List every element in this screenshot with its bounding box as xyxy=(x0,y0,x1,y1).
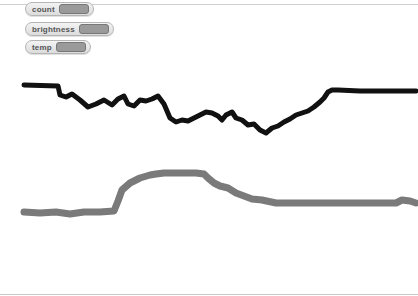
watcher-count[interactable]: count xyxy=(25,2,94,16)
watcher-label: temp xyxy=(32,43,52,52)
watcher-label: count xyxy=(32,5,55,14)
watcher-label: brightness xyxy=(32,25,75,34)
watcher-value xyxy=(56,42,86,52)
watcher-temp[interactable]: temp xyxy=(25,40,91,54)
brightness-trace-line xyxy=(24,173,416,214)
temp-trace-line xyxy=(24,85,416,133)
watcher-brightness[interactable]: brightness xyxy=(25,22,114,36)
watcher-value xyxy=(59,4,89,14)
watcher-value xyxy=(79,24,109,34)
